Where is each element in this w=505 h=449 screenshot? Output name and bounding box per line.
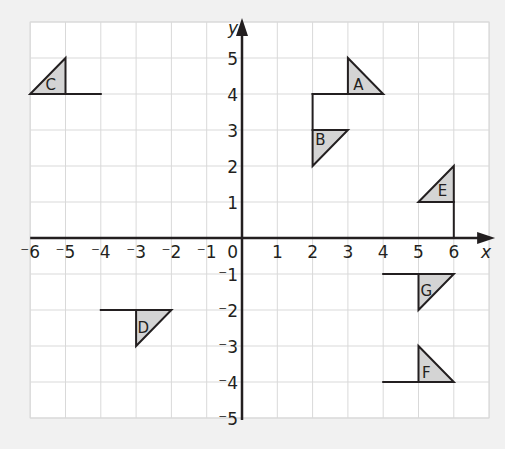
coordinate-grid: ABCDEFG ⁻6⁻5⁻4⁻3⁻2⁻112345654321⁻1⁻2⁻3⁻4⁻… (0, 0, 505, 449)
y-axis-label: y (227, 18, 239, 38)
y-tick-label: ⁻2 (218, 301, 238, 321)
y-tick-label: ⁻3 (218, 337, 238, 357)
shape-label: C (45, 76, 55, 94)
shape-label: A (353, 76, 364, 94)
origin-label: 0 (227, 242, 238, 262)
x-tick-label: ⁻3 (126, 242, 146, 262)
y-tick-label: 3 (227, 121, 238, 141)
x-tick-label: 6 (448, 242, 459, 262)
x-tick-label: ⁻2 (162, 242, 182, 262)
y-tick-label: 2 (227, 157, 238, 177)
y-tick-label: 4 (227, 85, 238, 105)
x-tick-label: ⁻4 (91, 242, 111, 262)
x-tick-label: 1 (272, 242, 283, 262)
shape-label: D (137, 319, 149, 337)
y-tick-label: 1 (227, 193, 238, 213)
shape-label: G (420, 282, 432, 300)
y-tick-label: 5 (227, 49, 238, 69)
x-axis-label: x (480, 242, 492, 262)
x-tick-label: ⁻6 (20, 242, 40, 262)
y-tick-label: ⁻1 (218, 265, 238, 285)
shape-label: F (422, 364, 431, 382)
x-tick-label: 4 (378, 242, 389, 262)
x-tick-label: 2 (307, 242, 318, 262)
y-tick-label: ⁻5 (218, 409, 238, 429)
x-tick-label: ⁻1 (197, 242, 217, 262)
x-tick-label: 3 (342, 242, 353, 262)
shape-label: B (315, 131, 325, 149)
y-tick-label: ⁻4 (218, 373, 238, 393)
x-tick-label: 5 (413, 242, 424, 262)
shape-label: E (438, 182, 447, 200)
x-tick-label: ⁻5 (56, 242, 76, 262)
